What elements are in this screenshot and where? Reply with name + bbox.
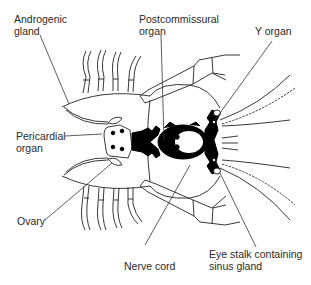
antennae	[220, 75, 295, 220]
tail-region	[104, 125, 132, 158]
lower-claw	[140, 180, 240, 225]
crayfish-endocrine-diagram: Androgenic gland Postcommissural organ Y…	[0, 0, 311, 285]
upper-claw	[140, 55, 240, 103]
label-ovary: Ovary	[17, 215, 46, 227]
label-eye-stalk: Eye stalk containing sinus gland	[209, 248, 305, 272]
label-postcommissural-organ: Postcommissural organ	[139, 13, 222, 37]
label-androgenic-gland: Androgenic gland	[14, 13, 70, 37]
leader-lines	[40, 35, 272, 247]
gonads	[64, 107, 122, 175]
upper-legs	[83, 50, 141, 93]
label-y-organ: Y organ	[255, 25, 292, 37]
lower-legs	[81, 186, 142, 230]
label-pericardial-organ: Pericardial organ	[16, 130, 69, 154]
label-nerve-cord: Nerve cord	[124, 260, 176, 272]
nerve-system	[132, 110, 221, 174]
